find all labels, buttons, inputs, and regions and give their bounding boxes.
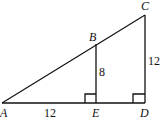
right-angle-marker-D [133, 94, 145, 103]
triangle-diagram: C B A E D 8 12 12 [0, 0, 161, 121]
hypotenuse-AC [2, 15, 145, 103]
label-B: B [89, 30, 97, 44]
label-D: D [139, 106, 149, 120]
label-E: E [91, 106, 100, 120]
measure-CD: 12 [148, 54, 160, 68]
label-A: A [0, 106, 8, 120]
label-C: C [141, 0, 150, 13]
right-angle-marker-E [85, 94, 96, 103]
measure-AE: 12 [44, 106, 56, 120]
measure-BE: 8 [99, 65, 105, 79]
